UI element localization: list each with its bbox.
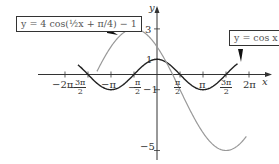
x-tick-label-neg-3pi2: 3π2 bbox=[74, 79, 86, 96]
x-tick-label-pi: π bbox=[199, 80, 206, 90]
x-tick-label-2pi: 2π bbox=[243, 80, 256, 90]
y-axis-arrow-icon bbox=[155, 6, 160, 13]
callout-shifted-cosine: y = 4 cos(½x + π/4) − 1 bbox=[16, 16, 142, 32]
y-tick-label-1: 1 bbox=[146, 55, 152, 65]
graph-figure: y x −2π − 3π2 −π − π2 π2 π 3π2 2π 3 1 −1… bbox=[0, 0, 279, 164]
y-tick-label-neg-5: −5 bbox=[140, 142, 155, 152]
y-axis-label: y bbox=[149, 3, 155, 13]
x-tick-label-pi2: π2 bbox=[174, 79, 181, 96]
y-tick-label-3: 3 bbox=[145, 25, 151, 35]
callout-cosine: y = cos x bbox=[229, 30, 279, 46]
x-tick-label-neg-pi2: π2 bbox=[134, 79, 141, 96]
x-tick-label-neg-pi: −π bbox=[101, 80, 116, 90]
x-axis-label: x bbox=[262, 77, 268, 87]
x-tick-label-3pi2: 3π2 bbox=[220, 79, 232, 96]
callout-pointer-icon bbox=[238, 49, 243, 62]
y-tick-label-neg-1: −1 bbox=[143, 85, 158, 95]
